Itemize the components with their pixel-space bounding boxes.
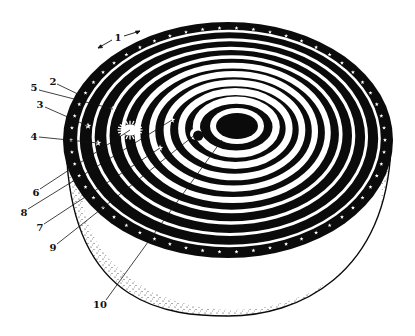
celestial-disc [63,22,393,258]
label-7: 7 [37,223,44,233]
label-9: 9 [50,243,57,253]
label-4: 4 [31,132,38,142]
arrowhead-right-icon [136,31,141,34]
earth [216,113,258,139]
label-3: 3 [37,100,44,110]
label-2: 2 [50,77,57,87]
label-1: 1 [115,33,122,43]
arrowhead-left-icon [98,45,103,48]
label-5: 5 [31,83,38,93]
label-10: 10 [93,300,107,310]
leader-line-2 [57,84,82,96]
label-8: 8 [21,208,28,218]
label-6: 6 [33,188,40,198]
cosmology-diagram [0,0,415,336]
